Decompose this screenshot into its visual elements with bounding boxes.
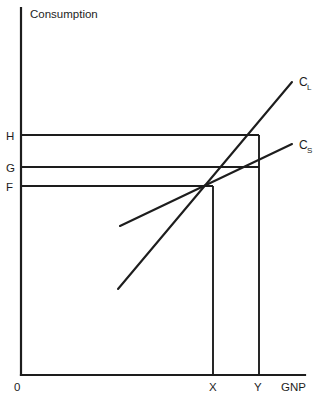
x-tick-label-y: Y — [254, 381, 262, 393]
curve-label-cl-sub: L — [307, 83, 312, 92]
x-tick-label-x: X — [209, 381, 217, 393]
y-tick-label-f: F — [6, 181, 13, 193]
chart-canvas: Consumption GNP 0 H G F X Y C L C S — [0, 0, 322, 408]
origin-label: 0 — [14, 381, 20, 393]
x-axis-title: GNP — [281, 381, 306, 393]
y-tick-label-g: G — [6, 162, 15, 174]
y-axis-title: Consumption — [30, 8, 98, 20]
curve-label-cl: C L — [299, 75, 312, 92]
y-tick-label-h: H — [6, 130, 14, 142]
curve-label-cs: C S — [299, 138, 312, 155]
curve-cs — [120, 144, 292, 226]
consumption-gnp-chart: Consumption GNP 0 H G F X Y C L C S — [0, 0, 322, 408]
curve-label-cs-sub: S — [307, 146, 312, 155]
